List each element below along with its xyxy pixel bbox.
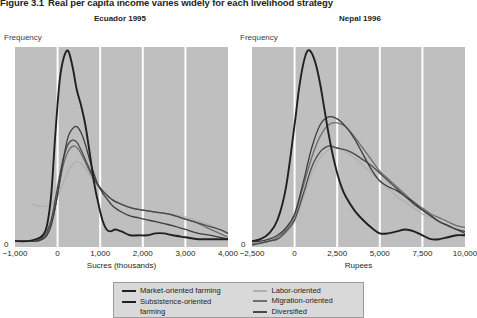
x-tick-label: 2,500 bbox=[327, 249, 347, 258]
x-tick-label: 1,000 bbox=[90, 249, 110, 258]
x-tick-label: 4,000 bbox=[218, 249, 238, 258]
legend-line-swatch-icon bbox=[122, 301, 136, 303]
x-tick-label: −1,000 bbox=[3, 249, 28, 258]
legend-item[interactable]: Labor-oriented bbox=[253, 286, 363, 296]
y-axis-label-nepal: Frequency bbox=[240, 33, 278, 42]
panel-title-ecuador: Ecuador 1995 bbox=[62, 14, 178, 23]
chart-svg bbox=[252, 47, 465, 247]
legend-item-label-continued: farming bbox=[140, 307, 253, 317]
chart-svg bbox=[15, 47, 228, 247]
legend-column-left: Market-oriented farmingSubsistence-orien… bbox=[122, 286, 253, 317]
figure-title: Figure 3.1Real per capita income varies … bbox=[0, 0, 333, 8]
x-tick-label: 0 bbox=[55, 249, 59, 258]
legend-column-right: Labor-orientedMigration-orientedDiversif… bbox=[253, 286, 363, 317]
legend-item[interactable]: Migration-oriented bbox=[253, 296, 363, 306]
x-tick-label: 5,000 bbox=[370, 249, 390, 258]
legend: Market-oriented farmingSubsistence-orien… bbox=[113, 282, 364, 318]
legend-item[interactable]: Market-oriented farming bbox=[122, 286, 253, 297]
figure-container: Figure 3.1Real per capita income varies … bbox=[0, 0, 477, 318]
legend-item-label: Market-oriented farming bbox=[140, 286, 221, 296]
x-axis-label-ecuador: Sucres (thousands) bbox=[15, 261, 228, 270]
x-axis-label-nepal: Rupees bbox=[252, 261, 465, 270]
series-line bbox=[36, 140, 228, 241]
legend-item[interactable]: Subsistence-oriented bbox=[122, 297, 253, 308]
plot-area-nepal bbox=[252, 47, 465, 247]
legend-item[interactable]: Diversified bbox=[253, 307, 363, 317]
x-tick-label: −2,500 bbox=[240, 249, 265, 258]
series-line bbox=[38, 146, 228, 241]
x-tick-label: 7,500 bbox=[412, 249, 432, 258]
figure-number: Figure 3.1 bbox=[0, 0, 48, 8]
legend-item-label: Subsistence-oriented bbox=[140, 297, 211, 307]
y-zero-tick-ecuador: 0 bbox=[4, 240, 8, 249]
y-zero-tick-nepal: 0 bbox=[241, 240, 245, 249]
legend-line-swatch-icon bbox=[253, 290, 267, 292]
legend-line-swatch-icon bbox=[253, 311, 267, 313]
legend-item-label: Diversified bbox=[271, 307, 306, 317]
plot-area-ecuador bbox=[15, 47, 228, 247]
legend-line-swatch-icon bbox=[122, 290, 136, 292]
series-line bbox=[252, 117, 465, 242]
x-tick-label: 10,000 bbox=[453, 249, 477, 258]
legend-item-label: Labor-oriented bbox=[271, 286, 320, 296]
x-tick-label: 3,000 bbox=[175, 249, 195, 258]
panel-title-nepal: Nepal 1996 bbox=[302, 14, 418, 23]
x-tick-label: 0 bbox=[292, 249, 296, 258]
series-line bbox=[252, 123, 465, 244]
x-tick-label: 2,000 bbox=[133, 249, 153, 258]
y-axis-label-ecuador: Frequency bbox=[4, 33, 42, 42]
legend-line-swatch-icon bbox=[253, 300, 267, 302]
figure-title-text: Real per capita income varies widely for… bbox=[48, 0, 333, 8]
legend-item-label: Migration-oriented bbox=[271, 296, 332, 306]
